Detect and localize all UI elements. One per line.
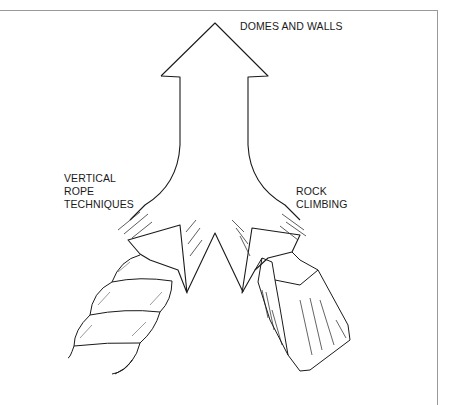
up-arrow-icon [161, 23, 300, 220]
split-notch [187, 233, 243, 292]
rock-shading [262, 290, 346, 355]
rope-shading [80, 262, 162, 338]
label-line: CLIMBING [296, 198, 348, 211]
label-line: ROCK [296, 185, 348, 198]
up-arrow-left-shaft [130, 76, 180, 220]
label-line: ROPE [64, 185, 134, 198]
label-rock-climbing: ROCK CLIMBING [296, 185, 348, 211]
motion-lines-icon [118, 212, 306, 256]
label-line: TECHNIQUES [64, 198, 134, 211]
label-vertical-rope-techniques: VERTICAL ROPE TECHNIQUES [64, 172, 134, 211]
rope-icon [68, 255, 172, 374]
label-domes-and-walls: DOMES AND WALLS [240, 20, 343, 33]
left-arrow-head-icon [128, 225, 187, 293]
label-line: VERTICAL [64, 172, 134, 185]
